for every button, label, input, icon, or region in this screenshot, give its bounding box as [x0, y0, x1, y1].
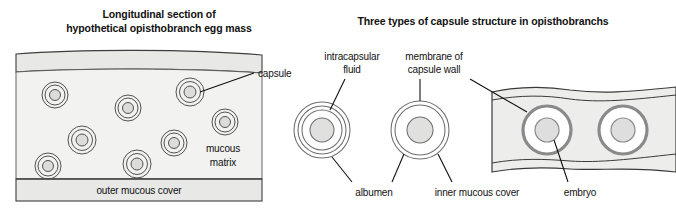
label-mucous-matrix-line1: mucous: [206, 143, 240, 154]
label-albumen: albumen: [355, 187, 392, 198]
label-membrane-of-capsule-wall-line1: membrane of: [405, 51, 463, 62]
label-inner-mucous-cover: inner mucous cover: [435, 187, 520, 198]
egg-mass-capsule-figure: Longitudinal section of hypothetical opi…: [0, 0, 676, 210]
left-panel-title-line2: hypothetical opisthobranch egg mass: [66, 22, 252, 34]
right-panel-title: Three types of capsule structure in opis…: [357, 15, 608, 27]
label-capsule: capsule: [258, 68, 292, 79]
chain-capsule: [523, 106, 571, 154]
chain-capsule: [599, 106, 647, 154]
label-embryo: embryo: [564, 187, 597, 198]
capsule-structure-concentric: [294, 102, 350, 158]
capsule-structure-chain: [492, 87, 676, 172]
left-panel-title-line1: Longitudinal section of: [102, 8, 216, 20]
label-mucous-matrix-line2: matrix: [210, 157, 236, 168]
label-outer-mucous-cover: outer mucous cover: [96, 185, 182, 196]
label-intracapsular-fluid-line1: intracapsular: [324, 51, 380, 62]
label-membrane-of-capsule-wall-line2: capsule wall: [408, 64, 461, 75]
label-intracapsular-fluid-line2: fluid: [343, 64, 361, 75]
